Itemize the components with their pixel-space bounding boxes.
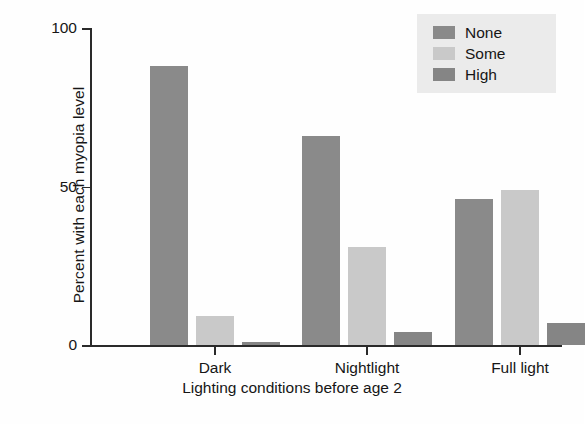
x-tick-mark [519, 346, 521, 355]
legend-label: High [465, 67, 497, 83]
bar-nightlight-high [394, 332, 432, 345]
bar-full-light-none [455, 199, 493, 345]
x-tick-mark [214, 346, 216, 355]
y-tick-label: 50 [60, 177, 77, 195]
bar-dark-high [242, 342, 280, 345]
y-tick-label: 100 [51, 19, 77, 37]
legend-label: Some [465, 46, 506, 62]
bar-dark-some [196, 316, 234, 345]
y-axis-line [90, 28, 92, 345]
legend-swatch-some [433, 47, 455, 60]
legend: NoneSomeHigh [417, 14, 556, 93]
legend-item-none: None [417, 22, 556, 43]
legend-item-some: Some [417, 43, 556, 64]
x-tick-label: Dark [199, 359, 232, 377]
bar-full-light-high [547, 323, 585, 345]
legend-swatch-high [433, 68, 455, 81]
legend-item-high: High [417, 64, 556, 85]
y-tick-mark: 50 [82, 187, 90, 189]
bar-full-light-some [501, 190, 539, 345]
y-tick-mark: 100 [82, 28, 90, 30]
bar-dark-none [150, 66, 188, 345]
legend-label: None [465, 25, 502, 41]
x-tick-mark [366, 346, 368, 355]
x-tick-label: Full light [491, 359, 549, 377]
x-axis-line [90, 345, 562, 347]
bar-nightlight-some [348, 247, 386, 345]
x-axis-title: Lighting conditions before age 2 [0, 379, 584, 397]
bar-nightlight-none [302, 136, 340, 345]
x-tick-label: Nightlight [335, 359, 400, 377]
y-tick-label: 0 [68, 336, 77, 354]
y-tick-mark: 0 [82, 345, 90, 347]
legend-swatch-none [433, 26, 455, 39]
